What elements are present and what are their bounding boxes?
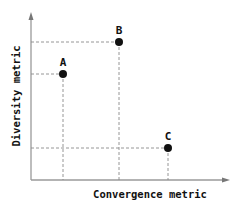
point-a: [59, 70, 67, 78]
point-b-label: B: [116, 24, 123, 37]
y-axis-label: Diversity metric: [10, 45, 22, 146]
y-axis-arrow-icon: [29, 12, 34, 20]
x-axis-arrow-icon: [222, 178, 230, 183]
projection-lines: [31, 42, 168, 180]
x-axis-label: Convergence metric: [93, 188, 207, 200]
point-c: [164, 144, 172, 152]
scatter-chart: A B C Convergence metric Diversity metri…: [0, 0, 242, 210]
point-c-label: C: [165, 130, 172, 143]
point-a-label: A: [60, 56, 67, 69]
point-b: [115, 38, 123, 46]
